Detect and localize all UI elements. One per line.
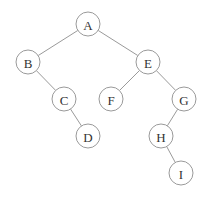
edge-b-c bbox=[36, 71, 55, 91]
node-d: D bbox=[76, 124, 100, 148]
node-label: D bbox=[83, 130, 92, 145]
edge-a-e bbox=[98, 30, 138, 55]
node-label: H bbox=[156, 130, 165, 145]
node-label: I bbox=[179, 167, 183, 182]
edge-a-b bbox=[38, 30, 78, 55]
node-label: A bbox=[83, 18, 93, 33]
edge-c-d bbox=[71, 109, 82, 126]
edge-h-i bbox=[167, 147, 176, 163]
edge-e-f bbox=[119, 70, 139, 90]
node-f: F bbox=[99, 87, 123, 111]
node-label: G bbox=[179, 93, 188, 108]
edge-g-h bbox=[167, 109, 177, 126]
node-b: B bbox=[16, 50, 40, 74]
node-label: E bbox=[144, 56, 152, 71]
node-c: C bbox=[52, 87, 76, 111]
node-e: E bbox=[136, 50, 160, 74]
node-label: B bbox=[24, 56, 33, 71]
node-g: G bbox=[172, 87, 196, 111]
tree-nodes: ABECFGDHI bbox=[16, 12, 196, 185]
node-label: C bbox=[60, 93, 69, 108]
binary-tree-diagram: ABECFGDHI bbox=[0, 0, 207, 197]
node-h: H bbox=[149, 124, 173, 148]
edge-e-g bbox=[156, 71, 175, 91]
node-i: I bbox=[169, 161, 193, 185]
node-label: F bbox=[107, 93, 114, 108]
node-a: A bbox=[76, 12, 100, 36]
